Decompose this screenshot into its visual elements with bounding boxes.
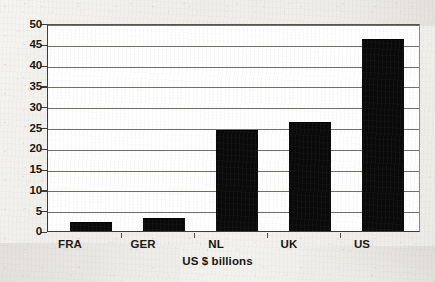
- y-tick-label-25: 25: [16, 123, 42, 135]
- y-tick-label-30: 30: [16, 102, 42, 114]
- chart-screenshot: 50 45 40 35 30 25 20 15 10 5 0 FRA GER N…: [0, 0, 435, 282]
- y-tick-label-10: 10: [16, 185, 42, 197]
- y-tick-label-40: 40: [16, 60, 42, 72]
- paper-smudge-top-right: [250, 0, 435, 26]
- bar-nl: [216, 130, 258, 231]
- x-category-label-fra: FRA: [49, 238, 91, 251]
- x-category-label-nl: NL: [195, 238, 237, 251]
- x-category-label-ger: GER: [122, 238, 164, 251]
- x-axis-title: US $ billions: [0, 255, 435, 268]
- gridline-50: [48, 25, 419, 26]
- bar-us: [362, 39, 404, 231]
- bar-uk: [289, 122, 331, 231]
- y-axis-tick-labels: 50 45 40 35 30 25 20 15 10 5 0: [14, 0, 42, 282]
- plot-area: [47, 24, 420, 232]
- y-tick-label-35: 35: [16, 81, 42, 93]
- x-category-label-uk: UK: [268, 238, 310, 251]
- x-category-label-us: US: [341, 238, 383, 251]
- y-tick-label-45: 45: [16, 39, 42, 51]
- y-tick-label-0: 0: [16, 226, 42, 238]
- y-tick-label-20: 20: [16, 143, 42, 155]
- y-tick-label-50: 50: [16, 19, 42, 31]
- y-tick-label-15: 15: [16, 164, 42, 176]
- bar-fra: [70, 222, 112, 231]
- y-tick-label-5: 5: [16, 206, 42, 218]
- bar-ger: [143, 218, 185, 232]
